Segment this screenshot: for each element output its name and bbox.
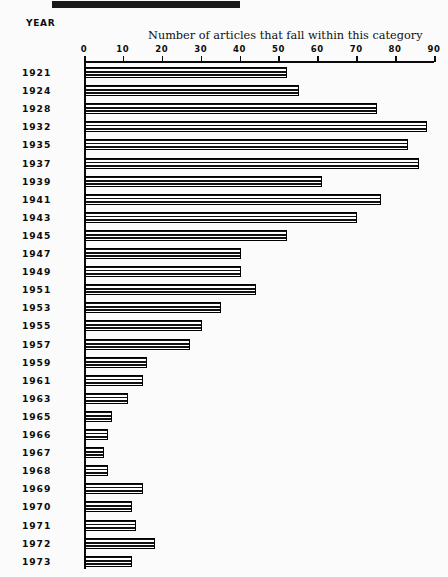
bar — [85, 393, 128, 404]
bar-category-label: 1971 — [22, 520, 78, 531]
bar — [85, 194, 381, 205]
bar — [85, 320, 202, 331]
bar — [85, 465, 108, 476]
bar-category-label: 1924 — [22, 85, 78, 96]
bar-category-label: 1970 — [22, 501, 78, 512]
bar — [85, 212, 357, 223]
bar — [85, 483, 143, 494]
bar — [85, 520, 136, 531]
x-axis-tick-label: 20 — [155, 44, 168, 54]
x-axis-line — [84, 61, 434, 63]
scan-artifact-band — [52, 1, 240, 8]
x-axis-tick — [395, 56, 397, 62]
bar-category-label: 1973 — [22, 556, 78, 567]
x-axis-tick — [123, 56, 125, 62]
bar — [85, 556, 132, 567]
bar — [85, 158, 419, 169]
x-axis-tick — [201, 56, 203, 62]
bar-category-label: 1965 — [22, 411, 78, 422]
bar-category-label: 1935 — [22, 139, 78, 150]
bar-category-label: 1953 — [22, 302, 78, 313]
x-axis-tick-label: 40 — [233, 44, 246, 54]
x-axis-tick-label: 30 — [194, 44, 207, 54]
bar-category-label: 1928 — [22, 103, 78, 114]
x-axis-tick-label: 50 — [272, 44, 285, 54]
bar — [85, 139, 408, 150]
bar — [85, 538, 155, 549]
bar-category-label: 1969 — [22, 483, 78, 494]
x-axis-tick — [240, 56, 242, 62]
x-axis-tick-label: 70 — [350, 44, 363, 54]
bar — [85, 67, 287, 78]
bar-category-label: 1932 — [22, 121, 78, 132]
bar-category-label: 1961 — [22, 375, 78, 386]
x-axis-tick-label: 80 — [389, 44, 402, 54]
bar-category-label: 1941 — [22, 194, 78, 205]
x-axis-tick — [278, 56, 280, 62]
bar — [85, 121, 427, 132]
bar-chart: YEAR Number of articles that fall within… — [0, 0, 448, 577]
bar-category-label: 1951 — [22, 284, 78, 295]
bar-category-label: 1937 — [22, 158, 78, 169]
x-axis-tick-label: 90 — [427, 44, 440, 54]
bar — [85, 501, 132, 512]
x-axis-tick — [317, 56, 319, 62]
x-axis-tick-label: 0 — [81, 44, 88, 54]
bar — [85, 411, 112, 422]
bar — [85, 266, 241, 277]
bar-category-label: 1943 — [22, 212, 78, 223]
bar-category-label: 1947 — [22, 248, 78, 259]
bar-category-label: 1957 — [22, 339, 78, 350]
bar-category-label: 1968 — [22, 465, 78, 476]
bar — [85, 429, 108, 440]
bar-category-label: 1949 — [22, 266, 78, 277]
bar — [85, 248, 241, 259]
bar — [85, 375, 143, 386]
bar-category-label: 1921 — [22, 67, 78, 78]
chart-title: Number of articles that fall within this… — [148, 29, 423, 42]
bar-category-label: 1966 — [22, 429, 78, 440]
bar-category-label: 1963 — [22, 393, 78, 404]
bar — [85, 284, 256, 295]
x-axis-tick — [162, 56, 164, 62]
x-axis-tick — [356, 56, 358, 62]
x-axis-tick-label: 10 — [116, 44, 129, 54]
bar — [85, 103, 377, 114]
bar — [85, 357, 147, 368]
bar — [85, 447, 104, 458]
bar-category-label: 1959 — [22, 357, 78, 368]
x-axis-tick — [434, 56, 436, 62]
bar — [85, 230, 287, 241]
bar — [85, 302, 221, 313]
x-axis-tick-label: 60 — [311, 44, 324, 54]
y-axis-title: YEAR — [26, 18, 55, 28]
bar-category-label: 1955 — [22, 320, 78, 331]
bar — [85, 339, 190, 350]
bar-category-label: 1967 — [22, 447, 78, 458]
bar — [85, 85, 299, 96]
bar-category-label: 1945 — [22, 230, 78, 241]
bar-category-label: 1972 — [22, 538, 78, 549]
x-axis-tick — [84, 56, 86, 62]
bar-category-label: 1939 — [22, 176, 78, 187]
bar — [85, 176, 322, 187]
